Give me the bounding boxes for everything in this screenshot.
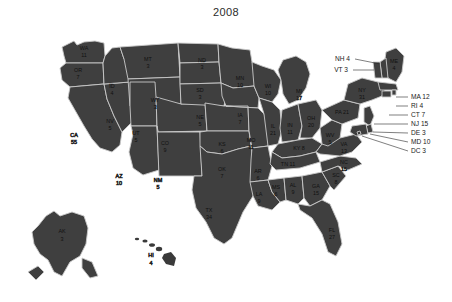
- state-label-pa: PA 21: [335, 109, 349, 115]
- callout-label-de: DE 3: [411, 129, 426, 136]
- callout-label-vt: VT 3: [334, 66, 348, 73]
- state-label-wi: WI10: [265, 83, 272, 96]
- state-label-ca: CA55: [70, 132, 78, 145]
- hawaii-islands[interactable]: [135, 238, 176, 266]
- state-shape-vt[interactable]: [373, 62, 382, 78]
- state-shape-nj[interactable]: [364, 106, 374, 126]
- state-shape-ma[interactable]: [378, 82, 398, 90]
- state-shape-tx[interactable]: [192, 146, 258, 244]
- state-shape-ar[interactable]: [250, 146, 272, 182]
- leader-line-dc: [362, 136, 408, 151]
- state-shape-mi[interactable]: [278, 56, 310, 104]
- state-label-hi: HI4: [148, 252, 153, 266]
- callout-label-md: MD 10: [411, 138, 431, 145]
- callout-label-ri: RI 4: [411, 102, 423, 109]
- state-label-nc: NC15: [340, 159, 348, 172]
- state-label-tx: TX34: [206, 207, 213, 220]
- state-shape-ct[interactable]: [382, 91, 391, 97]
- state-label-mi: MI17: [296, 88, 302, 101]
- callout-label-ma: MA 12: [411, 93, 430, 100]
- state-shape-fl[interactable]: [298, 200, 342, 256]
- callout-label-nj: NJ 15: [411, 120, 429, 127]
- state-shape-ri[interactable]: [392, 90, 396, 95]
- state-label-tn: TN 11: [281, 161, 295, 167]
- state-label-il: IL21: [270, 123, 276, 136]
- electoral-map-figure: 2008: [0, 0, 452, 302]
- state-shape-dc[interactable]: [357, 131, 361, 135]
- state-label-fl: FL27: [329, 227, 335, 240]
- state-label-az: AZ10: [116, 173, 124, 186]
- leader-line-de: [373, 132, 408, 133]
- state-label-ky: KY 8: [293, 145, 305, 151]
- state-label-in: IN11: [287, 122, 293, 135]
- us-electoral-map: WA11 OR7 CA55 NV5 ID4 MT3 WY3 UT5 AZ10 C…: [0, 0, 452, 302]
- callout-label-nh: NH 4: [335, 55, 350, 62]
- state-label-nm: NM5: [154, 177, 163, 190]
- state-label-ny: NY31: [358, 87, 366, 100]
- leader-line-md: [370, 134, 408, 142]
- callout-label-dc: DC 3: [411, 147, 426, 154]
- state-label-oh: OH20: [307, 115, 315, 128]
- state-shape-ak[interactable]: [28, 211, 98, 280]
- callout-label-ct: CT 7: [411, 111, 426, 118]
- state-label-va: VA13: [341, 141, 348, 154]
- leader-line-nh: [355, 59, 380, 64]
